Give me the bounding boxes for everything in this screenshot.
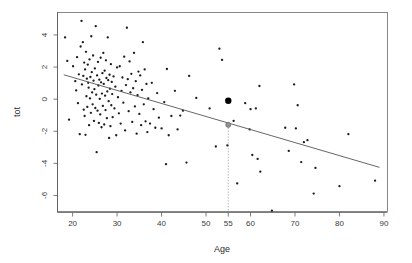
data-point	[293, 83, 295, 85]
data-point	[106, 117, 108, 119]
data-point	[80, 20, 82, 22]
data-point	[151, 82, 153, 84]
data-point	[249, 108, 251, 110]
x-tick-label-55: 55	[224, 219, 233, 228]
data-point	[146, 131, 148, 133]
data-point	[96, 74, 98, 76]
data-point	[108, 74, 110, 76]
data-point	[154, 127, 156, 129]
data-point	[106, 90, 108, 92]
data-point	[128, 60, 130, 62]
data-point	[221, 59, 223, 61]
data-point	[179, 114, 181, 116]
x-tick-label-40: 40	[157, 219, 166, 228]
data-point	[133, 52, 135, 54]
highlighted-observation	[225, 98, 231, 104]
data-point	[165, 163, 167, 165]
data-point	[111, 81, 113, 83]
data-point	[303, 141, 305, 143]
data-point	[82, 41, 84, 43]
x-tick-label-70: 70	[291, 219, 300, 228]
x-tick-label-20: 20	[68, 219, 77, 228]
data-point	[81, 83, 83, 85]
data-point	[110, 63, 112, 65]
data-point	[251, 154, 253, 156]
data-point	[100, 126, 102, 128]
data-point	[86, 77, 88, 79]
data-point	[130, 73, 132, 75]
data-point	[78, 73, 80, 75]
data-point	[158, 116, 160, 118]
data-point	[113, 107, 115, 109]
data-point	[121, 76, 123, 78]
data-point	[107, 79, 109, 81]
data-point	[99, 98, 101, 100]
data-point	[92, 80, 94, 82]
data-point	[91, 91, 93, 93]
x-axis-ticks	[73, 213, 384, 217]
data-point	[122, 102, 124, 104]
data-point	[119, 65, 121, 67]
data-point	[170, 115, 172, 117]
data-point	[271, 210, 273, 212]
data-point	[112, 116, 114, 118]
data-point	[111, 93, 113, 95]
data-point	[91, 71, 93, 73]
y-tick-label-0: 0	[40, 96, 49, 101]
data-point	[288, 150, 290, 152]
regression-line	[64, 75, 380, 168]
data-point	[124, 129, 126, 131]
data-point	[338, 185, 340, 187]
data-point	[103, 123, 105, 125]
data-point	[99, 57, 101, 59]
data-point	[137, 70, 139, 72]
data-point	[313, 192, 315, 194]
data-point	[93, 88, 95, 90]
data-point	[109, 125, 111, 127]
data-point	[127, 78, 129, 80]
data-point	[131, 121, 133, 123]
data-point	[135, 80, 137, 82]
y-axis-ticks	[54, 35, 58, 195]
data-point	[88, 124, 90, 126]
fitted-value-at-age-55	[226, 122, 231, 127]
data-point	[208, 107, 210, 109]
data-point	[79, 45, 81, 47]
data-point	[107, 36, 109, 38]
plot-canvas: 203040505560708090 420-2-4-6 Age tot	[0, 0, 412, 263]
data-point	[176, 128, 178, 130]
x-tick-label-90: 90	[379, 219, 388, 228]
data-point	[226, 144, 228, 146]
scatter-points	[64, 20, 376, 212]
data-point	[102, 105, 104, 107]
data-point	[90, 35, 92, 37]
data-point	[75, 89, 77, 91]
data-point	[103, 83, 105, 85]
scatter-plot-figure: 203040505560708090 420-2-4-6 Age tot	[0, 0, 412, 263]
y-tick-label--4: -4	[40, 159, 49, 167]
data-point	[87, 86, 89, 88]
data-point	[134, 105, 136, 107]
data-point	[314, 167, 316, 169]
data-point	[136, 133, 138, 135]
data-point	[92, 54, 94, 56]
data-point	[295, 127, 297, 129]
data-point	[90, 112, 92, 114]
data-point	[88, 58, 90, 60]
data-point	[126, 27, 128, 29]
data-point	[95, 94, 97, 96]
data-point	[101, 72, 103, 74]
data-point	[95, 151, 97, 153]
data-point	[188, 75, 190, 77]
data-point	[100, 81, 102, 83]
data-point	[115, 134, 117, 136]
x-tick-label-80: 80	[335, 219, 344, 228]
data-point	[103, 69, 105, 71]
y-axis-title: tot	[12, 107, 22, 118]
data-point	[72, 65, 74, 67]
data-point	[300, 161, 302, 163]
y-tick-label-2: 2	[40, 64, 49, 69]
data-point	[297, 104, 299, 106]
data-point	[76, 56, 78, 58]
data-point	[139, 74, 141, 76]
